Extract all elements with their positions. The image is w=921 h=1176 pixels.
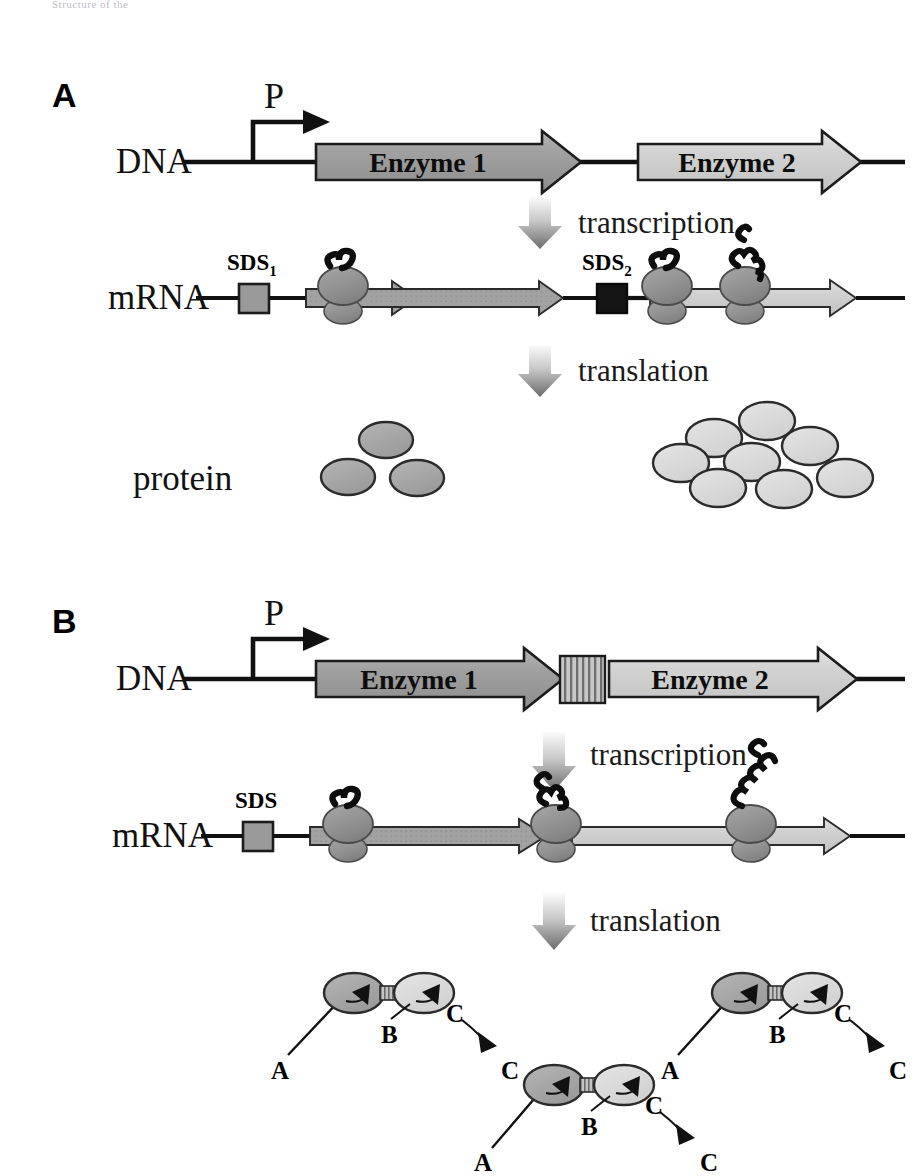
panel-b-translation-arrow [532,893,576,950]
panel-label-b: B [52,604,77,638]
panel-b-gene-enzyme-2: Enzyme 2 [609,648,857,710]
panel-a-art: Enzyme 1 Enzyme 2 [184,110,905,508]
panel-a-sds2-box [597,284,627,313]
panel-a-ribosome-1 [318,251,368,324]
panel-b-row-label-dna: DNA [116,661,192,696]
panel-label-a: A [52,78,77,112]
panel-a-sds1-label: SDS1 [227,251,277,279]
complex-1-product-c: C [501,1058,519,1083]
complex-2-intermediate-c: C [645,1093,663,1118]
complex-1-junction-b: B [381,1022,398,1047]
panel-b-ribosome-2 [531,774,581,862]
complex-1-substrate-a: A [271,1058,289,1083]
panel-b-sds-label: SDS [235,789,277,817]
sds1-text: SDS [227,250,269,275]
complex-3-junction-b: B [769,1022,786,1047]
panel-b-art: Enzyme 1 Enzyme 2 [184,627,905,1148]
panel-b-step-translation: translation [590,905,721,936]
panel-a-sds2-label: SDS2 [582,251,632,279]
panel-a-row-label-dna: DNA [116,144,192,179]
panel-a-protein-group-enzyme-1 [321,422,444,496]
panel-a-step-transcription: transcription [578,207,735,238]
sds-text: SDS [235,788,277,813]
panel-a-promoter-label: P [264,78,284,114]
panel-a-row-label-mrna: mRNA [108,280,209,315]
gene-label-enzyme-1: Enzyme 1 [369,147,486,178]
complex-2-junction-b: B [581,1114,598,1139]
panel-a-mrna-row [196,227,905,324]
panel-b-step-transcription: transcription [590,739,747,770]
sds2-text: SDS [582,250,624,275]
panel-a-gene-enzyme-1: Enzyme 1 [316,131,581,193]
panel-a-row-label-protein: protein [133,461,232,496]
gene-label-enzyme-1-b: Enzyme 1 [360,664,477,695]
panel-a-ribosome-3 [720,227,770,324]
panel-b-linker-box [560,656,605,703]
panel-a-translation-arrow [518,345,562,397]
panel-b-promoter-label: P [264,595,284,631]
gene-label-enzyme-2: Enzyme 2 [678,147,795,178]
panel-b-gene-enzyme-1: Enzyme 1 [316,648,563,710]
complex-1-intermediate-c: C [446,1001,464,1026]
sds1-subscript: 1 [269,263,277,279]
panel-a-transcription-arrow [518,197,562,249]
complex-3-product-c: C [889,1058,907,1083]
panel-a-step-translation: translation [578,355,709,386]
complex-3-substrate-a: A [661,1058,679,1083]
panel-a-ribosome-2 [642,251,692,324]
panel-a-protein-group-enzyme-2 [653,402,873,508]
panel-b-row-label-mrna: mRNA [112,818,213,853]
complex-2-substrate-a: A [474,1150,492,1175]
gene-label-enzyme-2-b: Enzyme 2 [651,664,768,695]
complex-2-product-c: C [700,1150,718,1175]
panel-b-ribosome-1 [323,789,373,862]
complex-3-intermediate-c: C [834,1001,852,1026]
panel-a-gene-enzyme-2: Enzyme 2 [638,131,861,193]
panel-b-sds-box [243,822,273,851]
sds2-subscript: 2 [624,263,632,279]
figure-canvas: Structure of the [0,0,921,1176]
panel-a-sds1-box [239,284,269,313]
